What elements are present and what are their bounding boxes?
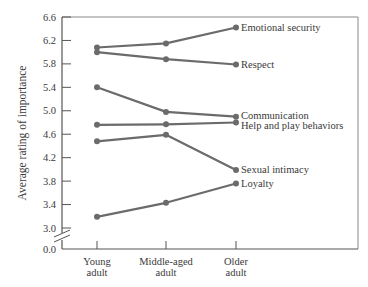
series-loyalty xyxy=(94,180,239,219)
data-point xyxy=(233,114,239,120)
y-tick-label: 3.0 xyxy=(43,223,56,234)
series-help-and-play-behaviors xyxy=(94,120,239,128)
series-communication xyxy=(94,84,239,119)
data-point xyxy=(163,200,169,206)
data-point xyxy=(233,180,239,186)
x-category-label: Olderadult xyxy=(224,256,248,278)
series-respect xyxy=(94,49,239,67)
series-label: Sexual intimacy xyxy=(241,164,310,175)
y-axis-label: Average rating of importance xyxy=(16,66,29,201)
line-chart: 6.66.25.85.45.04.64.23.83.43.00.0 Younga… xyxy=(0,0,368,287)
x-category-label: Youngadult xyxy=(83,256,111,278)
data-point xyxy=(94,84,100,90)
y-tick-label: 6.6 xyxy=(43,12,56,23)
data-point xyxy=(163,121,169,127)
series-labels: Emotional securityRespectCommunicationHe… xyxy=(241,22,343,189)
series-label: Emotional security xyxy=(241,22,321,33)
y-tick-label: 6.2 xyxy=(43,35,56,46)
y-tick-label: 4.2 xyxy=(43,152,56,163)
series-sexual-intimacy xyxy=(94,132,239,173)
y-tick-label: 5.4 xyxy=(43,82,57,93)
data-point xyxy=(94,214,100,220)
y-tick-label: 4.6 xyxy=(43,129,56,140)
series-label: Loyalty xyxy=(241,178,274,189)
y-tick-label: 5.0 xyxy=(43,105,56,116)
y-tick-label: 5.8 xyxy=(43,58,56,69)
y-tick-label: 0.0 xyxy=(43,244,56,255)
data-point xyxy=(163,56,169,62)
y-tick-label: 3.4 xyxy=(43,199,57,210)
data-point xyxy=(94,122,100,128)
data-point xyxy=(233,167,239,173)
data-point xyxy=(233,61,239,67)
series-emotional-security xyxy=(94,25,239,51)
data-point xyxy=(163,109,169,115)
x-category-label: Middle-agedadult xyxy=(139,256,193,278)
series-label: Help and play behaviors xyxy=(241,120,343,131)
series-label: Respect xyxy=(241,59,274,70)
y-axis: 6.66.25.85.45.04.64.23.83.43.00.0 xyxy=(43,12,71,255)
data-point xyxy=(233,25,239,31)
data-point xyxy=(233,120,239,126)
data-point xyxy=(94,138,100,144)
series-lines xyxy=(94,25,239,220)
y-tick-label: 3.8 xyxy=(43,176,56,187)
x-axis: YoungadultMiddle-agedadultOlderadult xyxy=(62,241,358,278)
data-point xyxy=(163,40,169,46)
data-point xyxy=(163,132,169,138)
data-point xyxy=(94,49,100,55)
